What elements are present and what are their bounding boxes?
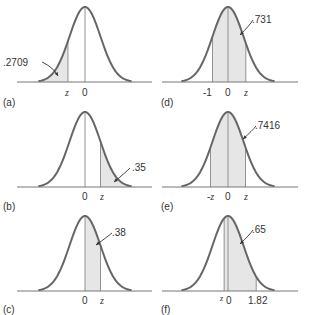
shaded-area-d xyxy=(213,7,246,82)
tick-c-0: 0 xyxy=(82,296,88,306)
area-label-c: .38 xyxy=(112,228,126,238)
tick-e-0: 0 xyxy=(225,192,231,202)
caption-f: (f) xyxy=(161,305,170,315)
tick-d-minus1: -1 xyxy=(203,88,212,98)
tick-d-z: z xyxy=(244,88,248,98)
tick-d-0: 0 xyxy=(225,88,231,98)
tick-c-z: z xyxy=(100,296,104,306)
caption-d: (d) xyxy=(161,98,173,108)
area-label-a: .2709 xyxy=(3,58,28,68)
caption-b: (b) xyxy=(3,202,15,212)
area-label-d: .731 xyxy=(252,15,271,25)
tick-e-z: z xyxy=(244,192,248,202)
caption-a: (a) xyxy=(3,98,15,108)
tick-a-z: z xyxy=(65,88,69,98)
area-label-b: .35 xyxy=(132,163,146,173)
tick-f-z: z xyxy=(220,295,223,303)
caption-e: (e) xyxy=(161,202,173,212)
tick-a-0: 0 xyxy=(82,88,88,98)
tick-f-182: 1.82 xyxy=(248,296,267,306)
normal-curves-figure xyxy=(0,0,310,315)
tick-b-z: z xyxy=(100,192,104,202)
tick-b-0: 0 xyxy=(82,192,88,202)
caption-c: (c) xyxy=(3,305,15,315)
tick-e-minus-z: -z xyxy=(207,192,214,202)
tick-f-0: 0 xyxy=(226,296,232,306)
area-label-e: .7416 xyxy=(255,121,280,131)
area-label-f: .65 xyxy=(252,225,266,235)
